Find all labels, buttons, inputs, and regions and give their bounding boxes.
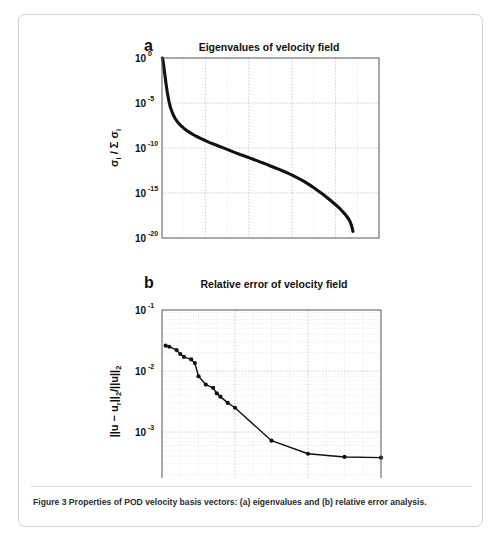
panel-b-ylabel-text: ||u − ur||2/||u||2	[108, 366, 123, 438]
panel-a-ytick-4: 10-20	[135, 230, 158, 244]
panel-a-xtick-2: 200	[240, 243, 257, 244]
panel-b-data-point	[204, 382, 208, 386]
panel-b-data-point	[175, 348, 179, 352]
panel-b-data-point	[215, 391, 219, 395]
panel-b-data-point	[306, 452, 310, 456]
panel-a-data-curve	[162, 58, 353, 231]
figure-caption: Figure 3 Properties of POD velocity basi…	[33, 497, 473, 509]
panel-b-data-point	[189, 357, 193, 361]
panel-a-ytick-2: 10-10	[135, 140, 158, 154]
panel-a-ytick-exp-2: -10	[148, 140, 158, 147]
panel-a-xtick-3: 300	[284, 243, 301, 244]
figure-card: a Eigenvalues of velocity field 01002003…	[18, 14, 483, 527]
panel-b-data-point	[226, 401, 230, 405]
panel-a-ylabel: σi / Σ σi	[108, 129, 123, 167]
panel-b-data-point	[218, 395, 222, 399]
panel-a-ytick-exp-4: -20	[148, 230, 158, 237]
panel-a-ytick-mantissa-1: 10	[135, 98, 147, 109]
panel-b-ytick-exp-0: -1	[148, 302, 154, 309]
panel-b-ylabel: ||u − ur||2/||u||2	[108, 366, 123, 438]
panel-b-data-point	[196, 374, 200, 378]
panel-a-ytick-exp-1: -5	[148, 95, 154, 102]
panel-a-ytick-mantissa-3: 10	[135, 188, 147, 199]
panel-a-ylabel-text: σi / Σ σi	[108, 129, 123, 167]
panel-b-data-point	[211, 386, 215, 390]
panel-a-title: Eigenvalues of velocity field	[139, 41, 399, 53]
panel-a-ytick-3: 10-15	[135, 185, 158, 199]
panel-a-eigenvalues: a Eigenvalues of velocity field 01002003…	[19, 19, 484, 259]
panel-b-title: Relative error of velocity field	[139, 278, 409, 290]
panel-b-ytick-mantissa-1: 10	[135, 366, 147, 377]
panel-b-plot: 0204060Number of POD modes10-110-210-310…	[19, 263, 484, 478]
panel-b-data-point	[233, 406, 237, 410]
panel-b-ytick-mantissa-0: 10	[135, 305, 147, 316]
panel-b-data-point	[193, 361, 197, 365]
panel-b-ytick-1: 10-2	[135, 363, 154, 377]
panel-b-data-point	[342, 455, 346, 459]
panel-b-ytick-exp-1: -2	[148, 363, 154, 370]
panel-a-xtick-4: 400	[327, 243, 344, 244]
panel-a-ytick-mantissa-4: 10	[135, 233, 147, 244]
panel-a-ytick-exp-3: -15	[148, 185, 158, 192]
panel-b-ytick-0: 10-1	[135, 302, 154, 316]
panel-b-ytick-exp-2: -3	[148, 424, 154, 431]
panel-b-data-point	[164, 344, 168, 348]
panel-a-ytick-1: 10-5	[135, 95, 154, 109]
panel-a-xtick-0: 0	[159, 243, 165, 244]
panel-a-xtick-1: 100	[197, 243, 214, 244]
panel-b-relative-error: b Relative error of velocity field 02040…	[19, 263, 484, 483]
panel-a-ytick-mantissa-2: 10	[135, 143, 147, 154]
panel-b-data-point	[269, 439, 273, 443]
panel-b-data-point	[182, 355, 186, 359]
caption-divider	[31, 486, 472, 487]
panel-b-ytick-2: 10-3	[135, 424, 154, 438]
panel-b-data-point	[178, 352, 182, 356]
panel-b-data-point	[167, 345, 171, 349]
panel-b-ytick-mantissa-2: 10	[135, 427, 147, 438]
panel-a-xtick-5: 500	[371, 243, 388, 244]
